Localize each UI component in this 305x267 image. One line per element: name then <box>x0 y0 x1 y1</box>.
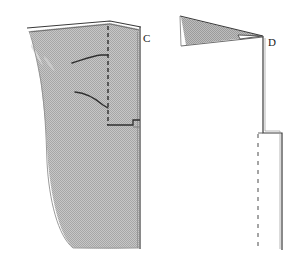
panel-d-label: D <box>268 36 276 48</box>
technical-figure: C D <box>0 0 305 267</box>
panel-d-solid-stepped-edge <box>263 36 282 250</box>
panel-d: D <box>180 16 282 250</box>
figure-root: C D <box>0 0 305 267</box>
panel-c: C <box>27 21 150 249</box>
panel-d-wedge-left-edge <box>180 16 181 46</box>
panel-c-shaded-body <box>30 23 139 249</box>
panel-c-label: C <box>143 32 150 44</box>
panel-d-wedge-body <box>181 17 262 45</box>
panel-d-solid-stepped-edge-shadow <box>265 38 280 249</box>
